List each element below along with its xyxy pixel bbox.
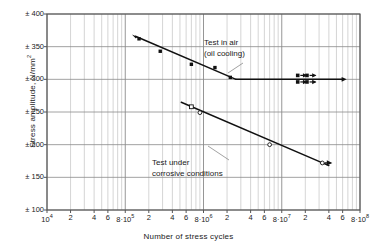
data-point-marker xyxy=(320,161,324,165)
runout-arrow-head xyxy=(327,160,333,165)
runout-marker xyxy=(305,74,309,78)
runout-marker xyxy=(296,80,300,84)
runout-arrow-head xyxy=(312,80,316,84)
data-point-marker xyxy=(189,105,193,109)
series-air-end-arrow xyxy=(342,77,347,82)
annotation-test-in-air-line2: (oil cooling) xyxy=(204,49,245,60)
data-point-marker xyxy=(229,76,232,79)
chart-root: Stress amplitude, N/mm2 ± 400± 350± 300±… xyxy=(0,0,377,249)
annotation-test-corrosive-line2: corrosive conditions xyxy=(152,169,223,180)
annotation-test-corrosive-line1: Test under xyxy=(152,158,223,169)
x-axis-title-text: Number of stress cycles xyxy=(144,232,234,241)
data-point-marker xyxy=(190,63,193,66)
x-axis-title: Number of stress cycles xyxy=(0,232,377,241)
series-air-start-arrow xyxy=(132,35,137,39)
plot-canvas xyxy=(0,0,377,249)
data-point-marker xyxy=(137,37,140,40)
runout-marker xyxy=(305,80,309,84)
data-point-marker xyxy=(213,66,216,69)
data-point-marker xyxy=(159,50,162,53)
runout-arrow-head xyxy=(312,73,316,77)
annotation-test-in-air: Test in air (oil cooling) xyxy=(204,38,245,59)
data-point-marker xyxy=(268,143,272,147)
data-point-marker xyxy=(198,111,202,115)
annotation-test-in-air-line1: Test in air xyxy=(204,38,245,49)
annotation-test-corrosive: Test under corrosive conditions xyxy=(152,158,223,179)
runout-marker xyxy=(296,74,300,78)
